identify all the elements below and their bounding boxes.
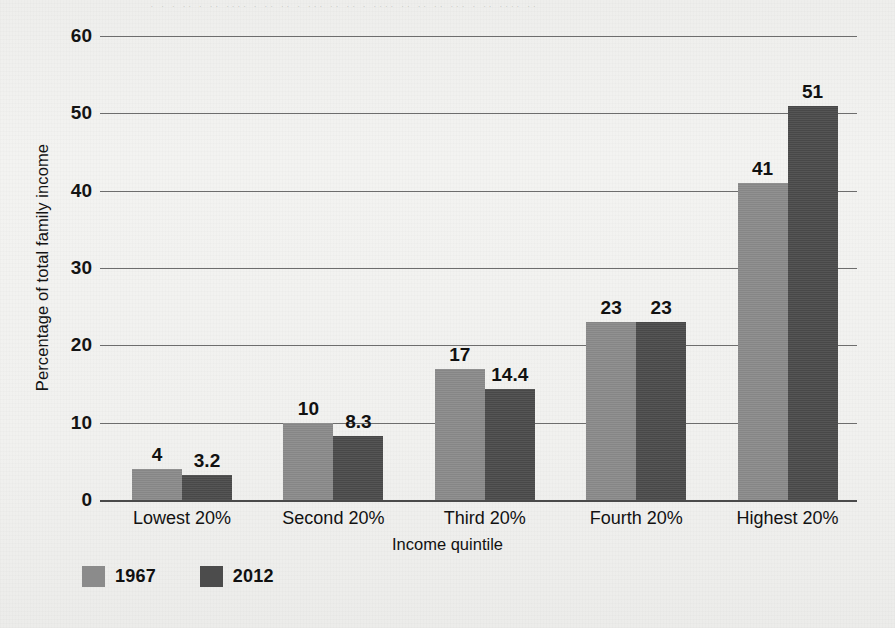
legend-swatch-1967 [82,566,105,587]
bar-value-label: 23 [629,297,693,319]
bar-value-label: 8.3 [326,411,390,433]
x-axis-tick-label: Highest 20% [688,508,888,529]
bar-2012 [485,389,535,500]
bar-group: 4151 [738,36,838,500]
bar-1967 [586,322,636,500]
y-axis-tick-label: 40 [46,180,92,202]
bar-2012 [182,475,232,500]
y-axis-tick-label: 50 [46,102,92,124]
bar-value-label: 3.2 [175,450,239,472]
x-axis-title: Income quintile [0,535,895,554]
bar-group: 1714.4 [435,36,535,500]
bar-2012 [788,106,838,500]
bar-1967 [283,423,333,500]
legend-item: 1967 [82,566,156,587]
bar-value-label: 17 [428,344,492,366]
legend-label: 2012 [233,566,274,587]
bar-group: 2323 [586,36,686,500]
x-axis-baseline [100,500,857,502]
bar-value-label: 51 [781,81,845,103]
y-axis-tick-label: 20 [46,334,92,356]
legend-swatch-2012 [200,566,223,587]
bar-2012 [636,322,686,500]
legend-item: 2012 [200,566,274,587]
bar-2012 [333,436,383,500]
y-axis-tick-label: 30 [46,257,92,279]
bar-1967 [435,369,485,500]
y-axis-tick-label: 60 [46,25,92,47]
bar-1967 [738,183,788,500]
legend-label: 1967 [115,566,156,587]
chart-legend: 19672012 [82,566,274,587]
bar-value-label: 14.4 [478,364,542,386]
y-axis-tick-label: 10 [46,412,92,434]
plot-area: 43.2108.31714.423234151 [100,36,857,500]
bar-value-label: 41 [731,158,795,180]
bar-group: 43.2 [132,36,232,500]
bar-chart: Percentage of total family income 010203… [0,0,895,628]
bar-group: 108.3 [283,36,383,500]
bar-1967 [132,469,182,500]
